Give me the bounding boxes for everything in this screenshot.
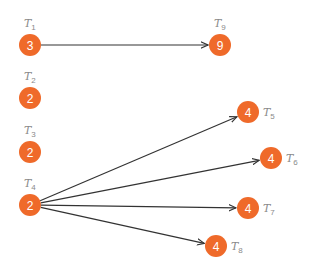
node-value: 2 bbox=[27, 146, 34, 160]
node-t6: 4T6 bbox=[260, 147, 298, 169]
node-label: T2 bbox=[24, 70, 36, 85]
node-t1: 3T1 bbox=[19, 17, 41, 56]
edge-t4-t7 bbox=[41, 205, 236, 208]
node-t4: 2T4 bbox=[19, 177, 41, 216]
node-t5: 4T5 bbox=[237, 101, 275, 123]
node-value: 3 bbox=[27, 39, 34, 53]
node-label: T5 bbox=[263, 106, 275, 121]
edge-t4-t8 bbox=[41, 207, 205, 243]
node-value: 2 bbox=[27, 92, 34, 106]
node-label: T7 bbox=[263, 202, 275, 217]
node-label: T8 bbox=[231, 240, 243, 255]
node-value: 4 bbox=[213, 240, 220, 254]
node-value: 2 bbox=[27, 199, 34, 213]
node-t2: 2T2 bbox=[19, 70, 41, 109]
node-label: T3 bbox=[24, 124, 36, 139]
node-label: T6 bbox=[286, 152, 298, 167]
node-t3: 2T3 bbox=[19, 124, 41, 163]
node-label: T4 bbox=[24, 177, 36, 192]
edges-layer bbox=[40, 45, 259, 243]
nodes-layer: 3T12T22T32T44T54T64T74T89T9 bbox=[19, 17, 298, 257]
node-value: 4 bbox=[245, 202, 252, 216]
node-t8: 4T8 bbox=[205, 235, 243, 257]
edge-t4-t6 bbox=[41, 160, 259, 203]
node-value: 9 bbox=[217, 39, 224, 53]
node-value: 4 bbox=[245, 106, 252, 120]
node-t7: 4T7 bbox=[237, 197, 275, 219]
node-t9: 9T9 bbox=[209, 17, 231, 56]
node-value: 4 bbox=[268, 152, 275, 166]
node-label: T1 bbox=[24, 17, 36, 32]
task-graph: 3T12T22T32T44T54T64T74T89T9 bbox=[0, 0, 313, 268]
node-label: T9 bbox=[214, 17, 226, 32]
edge-t4-t5 bbox=[40, 117, 237, 201]
